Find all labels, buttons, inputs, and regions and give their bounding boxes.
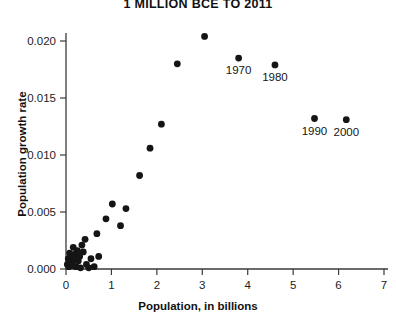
data-point	[77, 264, 84, 271]
x-tick-label: 7	[381, 279, 387, 291]
y-tick-label: 0.000	[27, 263, 56, 275]
point-annotation-group: 1970198019902000	[226, 64, 359, 138]
x-tick-label: 0	[63, 279, 69, 291]
data-point	[235, 55, 242, 62]
data-point	[95, 253, 102, 260]
population-growth-scatter-figure: 1 MILLION BCE TO 2011 0.0000.0050.0100.0…	[0, 0, 396, 319]
data-point	[147, 145, 154, 152]
data-point	[91, 263, 98, 270]
data-point	[201, 33, 208, 40]
data-point	[311, 115, 318, 122]
data-point	[123, 205, 130, 212]
data-point	[103, 215, 110, 222]
x-axis-ticks: 01234567	[63, 269, 387, 291]
plot-area: 0.0000.0050.0100.0150.020 01234567 19701…	[0, 0, 396, 319]
data-point-annotation: 1980	[262, 71, 288, 83]
data-point-group	[64, 33, 350, 271]
data-point	[79, 242, 86, 249]
data-point	[80, 249, 87, 256]
data-point	[93, 230, 100, 237]
data-point	[158, 121, 165, 128]
data-point	[272, 62, 279, 69]
data-point-annotation: 2000	[333, 126, 359, 138]
x-tick-label: 3	[199, 279, 205, 291]
x-tick-label: 5	[290, 279, 296, 291]
data-point	[117, 222, 124, 229]
data-point-annotation: 1990	[302, 125, 328, 137]
data-point	[88, 255, 95, 262]
data-point	[174, 60, 181, 67]
data-point	[82, 236, 89, 243]
data-point-annotation: 1970	[226, 64, 252, 76]
data-point	[343, 116, 350, 123]
y-tick-label: 0.005	[27, 206, 56, 218]
x-axis-label: Population, in billions	[0, 300, 396, 312]
y-tick-label: 0.010	[27, 149, 56, 161]
y-axis-ticks: 0.0000.0050.0100.0150.020	[27, 35, 66, 275]
y-tick-label: 0.015	[27, 92, 56, 104]
x-tick-label: 6	[335, 279, 341, 291]
x-tick-label: 1	[108, 279, 114, 291]
y-axis-label: Population growth rate	[16, 44, 28, 264]
x-tick-label: 4	[245, 279, 252, 291]
data-point	[136, 172, 143, 179]
data-point	[109, 201, 116, 208]
x-tick-label: 2	[154, 279, 160, 291]
y-tick-label: 0.020	[27, 35, 56, 47]
